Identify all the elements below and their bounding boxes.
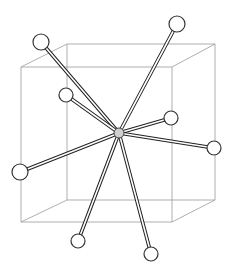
bond-line-highlight	[20, 133, 119, 172]
bond-line-highlight	[119, 133, 151, 254]
neighbor-atom	[12, 164, 28, 180]
neighbor-atom	[71, 234, 85, 248]
crystal-coordination-diagram	[0, 0, 235, 280]
neighbor-atom	[59, 88, 73, 102]
neighbor-atom	[144, 247, 158, 261]
cube-connector-edge	[21, 200, 67, 222]
neighbor-atom	[164, 111, 178, 125]
neighbor-atom	[169, 16, 185, 32]
bond-line-highlight	[41, 42, 119, 133]
neighbor-atom	[33, 34, 49, 50]
bonds	[20, 24, 214, 254]
center-atom	[114, 128, 124, 138]
bond-line-highlight	[78, 133, 119, 241]
cube-connector-edge	[172, 44, 215, 67]
bond-line-highlight	[119, 133, 214, 148]
neighbor-atom	[207, 141, 221, 155]
cube-connector-edge	[172, 200, 215, 222]
